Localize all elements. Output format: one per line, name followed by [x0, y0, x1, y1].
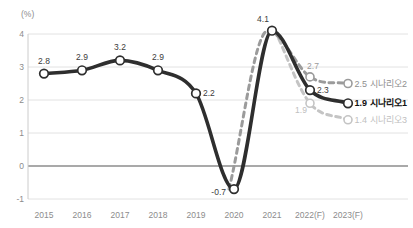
- value-label: 4.1: [257, 14, 269, 24]
- value-label: 2.7: [307, 61, 319, 71]
- growth-chart-svg: 43210-120152016201720182019202020212022(…: [0, 0, 413, 228]
- end-label-value: 1.4: [355, 115, 368, 125]
- y-tick-label: 3: [19, 62, 24, 72]
- growth-rate-chart: (%) 43210-120152016201720182019202020212…: [0, 0, 413, 228]
- value-label: 2.9: [152, 52, 164, 62]
- end-label-scenario-name: 시나리오2: [370, 79, 407, 89]
- x-tick-label: 2020: [225, 210, 244, 220]
- data-point-marker: [306, 73, 314, 81]
- data-point-marker: [306, 99, 314, 107]
- data-point-marker: [230, 185, 239, 194]
- y-tick-label: 0: [19, 161, 24, 171]
- y-tick-label: 1: [19, 128, 24, 138]
- data-point-marker: [268, 26, 277, 35]
- data-point-marker: [78, 66, 87, 75]
- x-tick-label: 2017: [111, 210, 130, 220]
- value-label: -0.7: [211, 187, 226, 197]
- data-point-marker: [344, 99, 353, 108]
- series-end-label: 1.9시나리오1: [355, 97, 408, 108]
- data-point-marker: [116, 56, 125, 65]
- value-label: 1.9: [295, 105, 307, 115]
- value-label: 2.9: [76, 52, 88, 62]
- data-point-marker: [344, 116, 352, 124]
- x-tick-label: 2018: [149, 210, 168, 220]
- data-point-marker: [344, 80, 352, 88]
- end-label-value: 1.9: [355, 98, 368, 108]
- data-point-marker: [40, 69, 49, 78]
- y-tick-label: -1: [16, 194, 24, 204]
- x-tick-label: 2021: [263, 210, 282, 220]
- value-label: 3.2: [114, 42, 126, 52]
- data-point-marker: [306, 86, 315, 95]
- x-tick-label: 2016: [73, 210, 92, 220]
- end-label-value: 2.5: [355, 79, 368, 89]
- value-label: 2.8: [38, 56, 50, 66]
- end-label-scenario-name: 시나리오1: [370, 97, 407, 108]
- y-axis-unit-label: (%): [21, 9, 34, 19]
- value-label: 2.2: [203, 88, 215, 98]
- data-point-marker: [154, 66, 163, 75]
- y-tick-label: 2: [19, 95, 24, 105]
- value-label: 2.3: [317, 85, 329, 95]
- x-tick-label: 2022(F): [295, 210, 325, 220]
- series-end-label: 1.4시나리오3: [355, 115, 408, 125]
- data-point-marker: [192, 89, 201, 98]
- end-label-scenario-name: 시나리오3: [370, 115, 407, 125]
- y-tick-label: 4: [19, 29, 24, 39]
- x-tick-label: 2015: [35, 210, 54, 220]
- x-tick-label: 2023(F): [333, 210, 363, 220]
- x-tick-label: 2019: [187, 210, 206, 220]
- series-end-label: 2.5시나리오2: [355, 79, 408, 89]
